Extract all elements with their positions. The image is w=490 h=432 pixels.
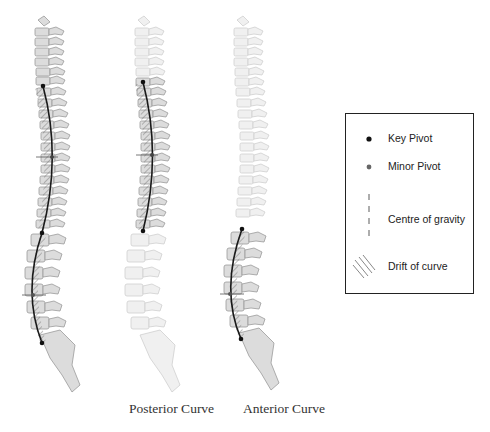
legend-item-centre-of-gravity: Centre of gravity <box>346 194 473 244</box>
legend-label: Key Pivot <box>388 132 432 144</box>
caption-anterior-curve: Anterior Curve <box>243 401 325 417</box>
legend-label: Drift of curve <box>388 260 448 272</box>
legend: Key Pivot Minor Pivot Centre of gravity … <box>345 113 474 294</box>
caption-posterior-curve: Posterior Curve <box>129 401 214 417</box>
atlas <box>38 16 50 26</box>
dashed-line-icon <box>365 194 373 244</box>
legend-item-drift-of-curve: Drift of curve <box>346 254 473 280</box>
minor-pivot-icon <box>364 162 374 172</box>
key-pivot-icon <box>364 134 374 144</box>
spine-full <box>25 16 80 392</box>
hatch-icon <box>352 254 378 280</box>
legend-item-minor-pivot: Minor Pivot <box>346 158 473 178</box>
legend-label: Centre of gravity <box>388 213 465 225</box>
legend-item-key-pivot: Key Pivot <box>346 130 473 150</box>
spine-anterior-faded <box>234 16 269 217</box>
legend-label: Minor Pivot <box>388 160 441 172</box>
